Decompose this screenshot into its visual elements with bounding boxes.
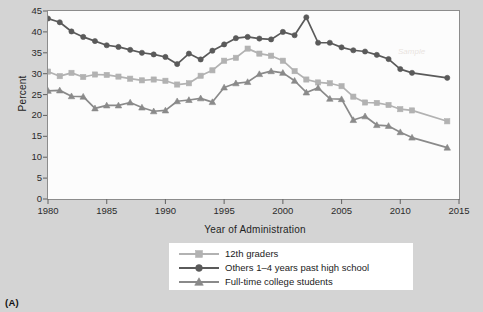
circle-marker-icon xyxy=(177,261,221,275)
x-tick-label: 1995 xyxy=(202,206,246,216)
legend-item-full-time-college-students[interactable]: Full-time college students xyxy=(177,275,333,289)
legend-item-label: Full-time college students xyxy=(225,277,333,287)
x-tick-label: 2005 xyxy=(320,206,364,216)
y-tick-label: 45 xyxy=(10,6,42,16)
x-axis-title: Year of Administration xyxy=(130,224,380,235)
y-tick-label: 10 xyxy=(10,152,42,162)
x-tick-label: 2010 xyxy=(378,206,422,216)
x-tick-label: 1985 xyxy=(85,206,129,216)
y-tick-label: 0 xyxy=(10,194,42,204)
square-marker-icon xyxy=(177,247,221,261)
x-tick-label: 1990 xyxy=(143,206,187,216)
y-tick-label: 40 xyxy=(10,27,42,37)
panel-label: (A) xyxy=(5,297,19,308)
legend-item-label: 12th graders xyxy=(225,249,278,259)
y-tick-label: 35 xyxy=(10,48,42,58)
x-tick-label: 1980 xyxy=(26,206,70,216)
chart-legend: 12th graders Others 1–4 years past high … xyxy=(169,243,413,290)
legend-item-12th-graders[interactable]: 12th graders xyxy=(177,247,278,261)
legend-item-label: Others 1–4 years past high school xyxy=(225,263,369,273)
y-axis-title: Percent xyxy=(17,64,28,124)
y-tick-label: 5 xyxy=(10,173,42,183)
legend-item-others-past-high-school[interactable]: Others 1–4 years past high school xyxy=(177,261,369,275)
x-tick-label: 2015 xyxy=(437,206,481,216)
figure-panel: 051015202530354045 198019851990199520002… xyxy=(0,0,483,312)
y-tick-label: 15 xyxy=(10,131,42,141)
x-tick-label: 2000 xyxy=(261,206,305,216)
triangle-marker-icon xyxy=(177,275,221,289)
